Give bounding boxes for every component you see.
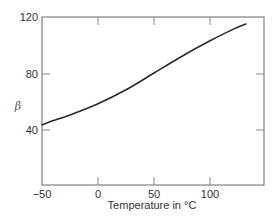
y-ticks bbox=[42, 74, 264, 130]
y-tick-label: 40 bbox=[26, 124, 38, 136]
chart: 120 80 40 −50 0 50 100 Temperature in °C… bbox=[0, 0, 276, 218]
x-tick-label: 100 bbox=[201, 188, 219, 200]
x-tick-label: 0 bbox=[95, 188, 101, 200]
x-tick-label: −50 bbox=[33, 188, 52, 200]
y-tick-label: 120 bbox=[20, 11, 38, 23]
y-tick-label: 80 bbox=[26, 68, 38, 80]
x-ticks bbox=[98, 17, 210, 185]
y-tick-labels: 120 80 40 bbox=[20, 11, 38, 136]
y-axis-label: β bbox=[14, 100, 21, 113]
x-axis-label: Temperature in °C bbox=[108, 199, 197, 211]
data-line bbox=[42, 24, 246, 125]
plot-frame bbox=[42, 17, 264, 185]
